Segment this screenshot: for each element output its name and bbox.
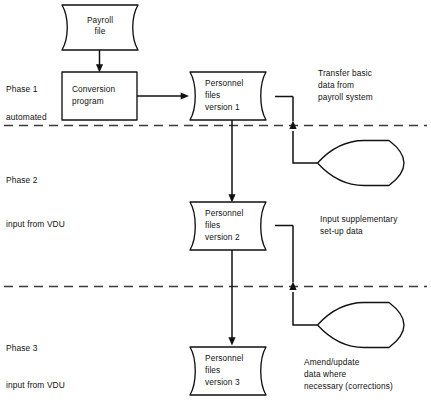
note-supplementary-line-1: Input supplementary	[320, 214, 398, 224]
phase-1-name: Phase 1	[6, 84, 38, 94]
phase-2-name: Phase 2	[6, 175, 38, 185]
note-amend: Amend/update data where necessary (corre…	[304, 357, 393, 391]
payroll-file-line-1: Payroll	[87, 15, 113, 25]
flowchart-canvas: Payroll file Conversion program Personne…	[0, 0, 431, 400]
display-1-shape	[318, 141, 405, 186]
node-conversion-program: Conversion program	[62, 72, 137, 120]
node-personnel-files-v2: Personnel files version 2	[190, 202, 266, 250]
connector-display2-riser	[293, 292, 318, 325]
note-transfer-line-1: Transfer basic	[318, 68, 372, 78]
personnel-files-v2-line-2: files	[205, 220, 220, 230]
node-payroll-file: Payroll file	[62, 5, 138, 50]
arrowhead-v1-to-v2	[228, 194, 235, 202]
personnel-files-v1-line-3: version 1	[205, 102, 240, 112]
conversion-program-line-2: program	[72, 96, 104, 106]
note-transfer: Transfer basic data from payroll system	[318, 68, 373, 102]
payroll-file-line-2: file	[94, 26, 105, 36]
note-amend-line-1: Amend/update	[304, 357, 360, 367]
phase-1-labels: Phase 1 automated	[6, 84, 47, 122]
node-personnel-files-v1: Personnel files version 1	[190, 72, 266, 120]
note-supplementary: Input supplementary set-up data	[320, 214, 398, 236]
node-display-1	[318, 141, 405, 186]
display-2-shape	[318, 303, 405, 348]
phase-3-name: Phase 3	[6, 343, 38, 353]
note-amend-line-2: data where	[304, 369, 347, 379]
note-transfer-line-3: payroll system	[318, 92, 373, 102]
arrowhead-display1-to-v1	[289, 121, 296, 130]
personnel-files-v3-line-1: Personnel	[205, 353, 243, 363]
note-transfer-line-2: data from	[318, 80, 354, 90]
arrowhead-display2-to-v2	[289, 282, 296, 291]
phase-2-mode: input from VDU	[6, 219, 65, 229]
personnel-files-v3-line-3: version 3	[205, 377, 240, 387]
phase-3-mode: input from VDU	[6, 380, 65, 390]
arrowhead-payroll-to-conversion	[96, 64, 103, 72]
conversion-program-line-1: Conversion	[72, 84, 115, 94]
personnel-files-v3-line-2: files	[205, 365, 220, 375]
personnel-files-v2-line-1: Personnel	[205, 208, 243, 218]
note-amend-line-3: necessary (corrections)	[304, 381, 393, 391]
node-personnel-files-v3: Personnel files version 3	[190, 347, 266, 395]
connector-display1-riser	[293, 131, 318, 163]
personnel-files-v2-line-3: version 2	[205, 232, 240, 242]
arrowhead-conversion-to-v1	[181, 92, 189, 99]
flowchart-svg: Payroll file Conversion program Personne…	[0, 0, 431, 400]
personnel-files-v1-line-1: Personnel	[205, 78, 243, 88]
note-supplementary-line-2: set-up data	[320, 226, 363, 236]
personnel-files-v1-line-2: files	[205, 90, 220, 100]
phase-1-mode: automated	[6, 112, 47, 122]
node-display-2	[318, 303, 405, 348]
arrowhead-v2-to-v3	[228, 337, 235, 345]
phase-2-labels: Phase 2 input from VDU	[6, 175, 65, 229]
phase-3-labels: Phase 3 input from VDU	[6, 343, 65, 390]
